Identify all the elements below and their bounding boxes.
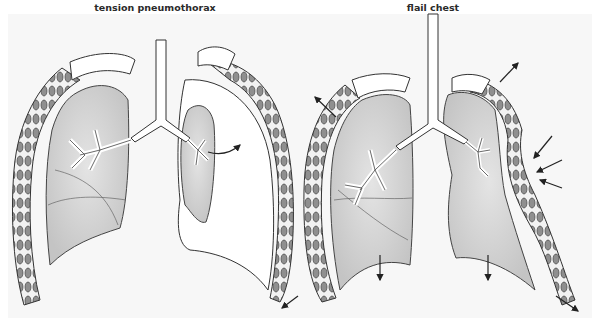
- left-lung-fc: [331, 95, 413, 290]
- chest-expansion-arrow-lower-right: [282, 296, 298, 308]
- paradoxical-inward-arrow-1: [534, 136, 552, 158]
- diagram-canvas: [0, 0, 600, 327]
- paradoxical-inward-arrow-2: [537, 160, 562, 172]
- tension-pneumothorax-panel: [12, 40, 298, 308]
- expansion-arrow-upper-right: [500, 63, 518, 82]
- left-lung: [46, 86, 129, 265]
- flail-chest-panel: [304, 14, 578, 311]
- paradoxical-inward-arrow-3: [540, 180, 562, 188]
